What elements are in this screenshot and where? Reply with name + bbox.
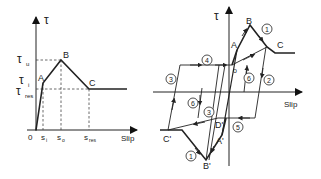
svg-text:1: 1 bbox=[189, 153, 193, 160]
s-i-tick-label: s i bbox=[41, 133, 47, 143]
path-marker-3-center: 3 bbox=[204, 107, 214, 117]
point-a-prime-label: A' bbox=[216, 136, 224, 146]
svg-text:2: 2 bbox=[267, 77, 271, 84]
point-a-label: A bbox=[38, 73, 44, 83]
path-marker-1-upper: 1 bbox=[262, 24, 272, 34]
path-marker-3-left: 3 bbox=[166, 74, 176, 84]
right-slip-label: Slip bbox=[284, 100, 298, 109]
point-b-prime-label: B' bbox=[203, 161, 211, 171]
right-diagram: τ Slip B A C o C' B' A' D' 1 2 3 4 5 bbox=[153, 7, 302, 171]
point-c-prime-label: C' bbox=[163, 134, 171, 144]
svg-text:3: 3 bbox=[207, 109, 211, 116]
path-marker-2: 2 bbox=[264, 75, 274, 85]
svg-text:6: 6 bbox=[191, 100, 195, 107]
right-point-b-label: B bbox=[246, 16, 252, 26]
svg-text:3: 3 bbox=[169, 76, 173, 83]
tau-res-tick-label: τ res bbox=[16, 84, 33, 99]
svg-text:s: s bbox=[84, 133, 88, 142]
tau-u-tick-label: τ u bbox=[17, 52, 29, 67]
point-c-label: C bbox=[89, 78, 96, 88]
svg-text:τ: τ bbox=[16, 84, 21, 98]
left-envelope-curve bbox=[36, 60, 127, 130]
left-diagram: τ B A C τ u τ i τ res 0 s i s o s res Sl… bbox=[16, 13, 137, 143]
right-point-c-label: C bbox=[277, 40, 284, 50]
svg-text:5: 5 bbox=[236, 124, 240, 131]
bond-slip-figure: τ B A C τ u τ i τ res 0 s i s o s res Sl… bbox=[0, 0, 321, 179]
path-marker-4: 4 bbox=[202, 55, 212, 65]
svg-text:o: o bbox=[62, 137, 65, 143]
path-marker-1-lower: 1 bbox=[186, 151, 196, 161]
svg-text:i: i bbox=[46, 137, 47, 143]
right-point-o-label: o bbox=[233, 67, 237, 74]
left-dashed-guides bbox=[36, 60, 89, 130]
svg-text:res: res bbox=[89, 137, 96, 143]
path-marker-6-right: 6 bbox=[244, 73, 254, 83]
svg-text:res: res bbox=[25, 93, 33, 99]
s-o-tick-label: s o bbox=[57, 133, 65, 143]
point-b-label: B bbox=[63, 50, 69, 60]
path-marker-5-right: 5 bbox=[233, 122, 243, 132]
svg-text:4: 4 bbox=[205, 57, 209, 64]
s-res-tick-label: s res bbox=[84, 133, 96, 143]
origin-label: 0 bbox=[28, 133, 33, 142]
svg-text:s: s bbox=[41, 133, 45, 142]
svg-text:u: u bbox=[26, 61, 29, 67]
left-tau-label: τ bbox=[44, 13, 49, 27]
point-d-prime-label: D' bbox=[215, 120, 223, 130]
right-tau-label: τ bbox=[214, 9, 219, 23]
path-marker-6-left: 6 bbox=[188, 98, 198, 108]
svg-text:1: 1 bbox=[265, 26, 269, 33]
svg-text:τ: τ bbox=[17, 52, 22, 66]
svg-text:6: 6 bbox=[247, 75, 251, 82]
svg-text:i: i bbox=[28, 82, 29, 88]
right-point-a-label: A bbox=[231, 40, 237, 50]
left-slip-label: Slip bbox=[121, 134, 135, 143]
svg-text:s: s bbox=[57, 133, 61, 142]
